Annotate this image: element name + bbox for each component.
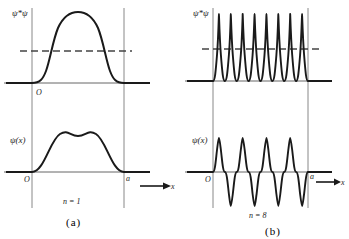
panel-a-x-axis-arrow: [140, 183, 171, 190]
panel-a-probability-density-curve: [32, 12, 124, 83]
panel-b-quantum-number: n = 8: [249, 211, 266, 220]
panel-b-label: (b): [265, 225, 281, 238]
panel-a-label: (a): [66, 216, 81, 229]
panel-a-bottom-ylabel: ψ(x): [10, 135, 26, 145]
panel-b: ψ*ψ ψ(x) O a x n = 8 (b): [185, 8, 345, 238]
panel-a-wavefunction-curve: [32, 132, 124, 172]
panel-a-quantum-number: n = 1: [63, 197, 80, 206]
panel-b-bottom-ylabel: ψ(x): [192, 135, 208, 145]
panel-b-top-ylabel: ψ*ψ: [193, 8, 209, 18]
panel-a-bottom-box-end-label: a: [126, 174, 130, 183]
panel-a-top-ylabel: ψ*ψ: [12, 8, 28, 18]
panel-b-probability-density-curve: [213, 14, 308, 81]
panel-b-bottom-origin-label: O: [205, 175, 211, 184]
wavefunction-figure: ψ*ψ O ψ(x) O a x n = 1 (a) ψ*ψ: [0, 0, 349, 239]
panel-b-x-axis-label: x: [340, 178, 345, 187]
panel-a-x-axis-label: x: [170, 182, 175, 191]
panel-b-x-axis-arrow: [316, 179, 341, 186]
figure-container: ψ*ψ O ψ(x) O a x n = 1 (a) ψ*ψ: [0, 0, 349, 239]
panel-a: ψ*ψ O ψ(x) O a x n = 1 (a): [4, 8, 175, 229]
panel-a-bottom-origin-label: O: [24, 175, 30, 184]
panel-b-bottom-box-end-label: a: [310, 172, 314, 181]
panel-a-top-origin-label: O: [36, 88, 42, 97]
